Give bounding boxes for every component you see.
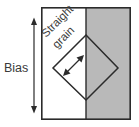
bias-arrow-head-up bbox=[31, 18, 37, 26]
bias-label: Bias bbox=[4, 61, 28, 75]
fabric-gray-half bbox=[86, 8, 130, 119]
figure-canvas: Bias Straight grain bbox=[0, 0, 139, 127]
bias-grain-figure: Bias Straight grain bbox=[0, 0, 139, 127]
bias-dimension-arrow bbox=[31, 18, 37, 114]
bias-arrow-head-down bbox=[31, 106, 37, 114]
